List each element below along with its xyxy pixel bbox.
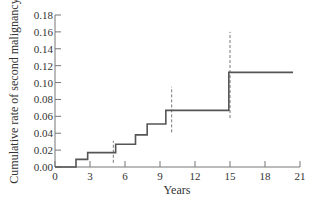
y-tick-label: 0.10 (34, 77, 54, 89)
x-tick-label: 3 (87, 170, 93, 182)
data-series (55, 72, 293, 167)
y-tick-label: 0.08 (34, 93, 54, 105)
y-tick-label: 0.14 (34, 43, 54, 55)
y-tick-label: 0.00 (34, 161, 54, 173)
y-tick-label: 0.16 (34, 26, 54, 38)
axes: 0.000.020.040.060.080.100.120.140.160.18… (34, 9, 306, 182)
y-tick-label: 0.18 (34, 9, 54, 21)
x-tick-label: 6 (122, 170, 128, 182)
x-tick-label: 0 (52, 170, 58, 182)
confidence-intervals (113, 32, 230, 163)
x-tick-label: 12 (190, 170, 201, 182)
y-tick-label: 0.06 (34, 110, 54, 122)
x-tick-label: 18 (260, 170, 272, 182)
y-axis-title: Cumulative rate of second malignancy (7, 0, 21, 184)
x-axis-label: Years (164, 183, 191, 197)
step-line (55, 72, 293, 167)
y-tick-label: 0.04 (34, 127, 54, 139)
x-tick-label: 9 (157, 170, 163, 182)
y-axis-label: Cumulative rate of second malignancy (7, 0, 21, 184)
x-tick-label: 21 (295, 170, 306, 182)
step-chart: Cumulative rate of second malignancy Yea… (0, 0, 315, 202)
y-tick-label: 0.12 (34, 60, 53, 72)
y-tick-label: 0.02 (34, 144, 53, 156)
x-tick-label: 15 (225, 170, 237, 182)
